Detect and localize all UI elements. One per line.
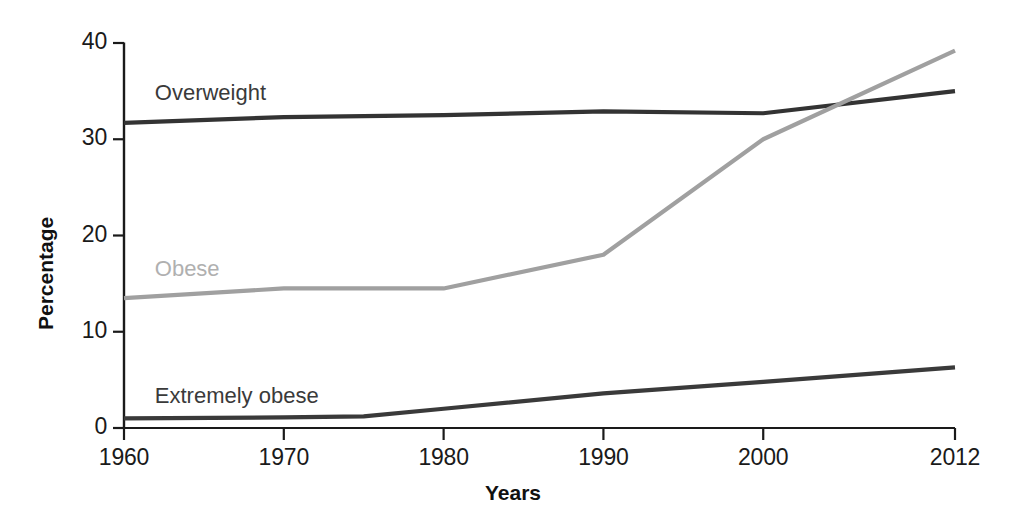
y-axis-title: Percentage [34, 217, 58, 330]
x-tick-label: 1960 [74, 444, 174, 471]
series-label-extremely-obese: Extremely obese [155, 383, 319, 409]
x-tick-label: 2012 [905, 444, 1005, 471]
x-tick-label: 2000 [713, 444, 813, 471]
y-tick-label: 40 [82, 28, 107, 55]
x-tick-label: 1980 [394, 444, 494, 471]
y-tick-label: 10 [82, 317, 107, 344]
chart-figure: 010203040 196019701980199020002012 Overw… [0, 0, 1026, 529]
y-tick-label: 0 [94, 413, 107, 440]
y-tick-label: 30 [82, 124, 107, 151]
y-tick-label: 20 [82, 221, 107, 248]
x-axis-title: Years [0, 481, 1026, 505]
x-tick-label: 1990 [553, 444, 653, 471]
x-tick-label: 1970 [234, 444, 334, 471]
series-label-overweight: Overweight [155, 80, 266, 106]
series-label-obese: Obese [155, 256, 220, 282]
